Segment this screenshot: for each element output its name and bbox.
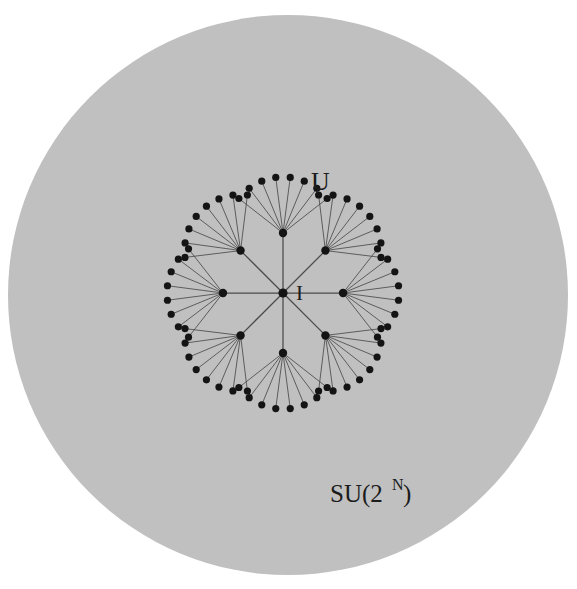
tree-node-leaf (395, 297, 402, 304)
tree-node-leaf (329, 192, 336, 199)
tree-node-leaf (193, 366, 200, 373)
tree-node-leaf (287, 405, 294, 412)
tree-node-leaf (175, 323, 182, 330)
tree-node-level1 (321, 246, 329, 254)
tree-node-root-identity (278, 288, 287, 297)
tree-node-leaf (366, 366, 373, 373)
tree-node-leaf (324, 384, 331, 391)
tree-node-leaf (287, 174, 294, 181)
tree-node-leaf (185, 225, 192, 232)
tree-node-leaf (301, 401, 308, 408)
tree-node-leaf (374, 245, 381, 252)
tree-node-leaf (377, 254, 384, 261)
tree-node-leaf (272, 174, 279, 181)
tree-node-leaf (377, 339, 384, 346)
figure-canvas: I U SU(2 N ) (0, 0, 577, 589)
tree-node-leaf (244, 191, 251, 198)
tree-node-leaf (168, 268, 175, 275)
tree-node-leaf (215, 383, 222, 390)
tree-node-leaf (395, 282, 402, 289)
tree-node-leaf (182, 239, 189, 246)
tree-node-leaf (391, 311, 398, 318)
tree-node-leaf (384, 256, 391, 263)
tree-node-leaf (391, 268, 398, 275)
tree-node-leaf (244, 387, 251, 394)
tree-node-leaf (185, 334, 192, 341)
tree-node-leaf (315, 387, 322, 394)
tree-node-leaf (193, 213, 200, 220)
tree-node-leaf (258, 178, 265, 185)
identity-label: I (296, 281, 303, 305)
tree-node-leaf (377, 325, 384, 332)
tree-node-leaf (229, 387, 236, 394)
tree-node-level1 (236, 331, 244, 339)
tree-node-level1 (279, 229, 287, 237)
tree-node-leaf (181, 325, 188, 332)
tree-node-leaf (175, 256, 182, 263)
tree-node-level1 (339, 289, 347, 297)
tree-node-leaf (356, 203, 363, 210)
tree-node-leaf (229, 192, 236, 199)
tree-node-leaf (384, 323, 391, 330)
tree-node-leaf (356, 376, 363, 383)
tree-node-level1 (321, 331, 329, 339)
tree-node-leaf (313, 394, 320, 401)
figure-root: I U SU(2 N ) (0, 0, 577, 589)
tree-node-leaf (168, 311, 175, 318)
unitary-label: U (311, 167, 330, 196)
tree-node-leaf (203, 376, 210, 383)
tree-node-leaf (164, 282, 171, 289)
tree-node-leaf (164, 297, 171, 304)
tree-node-leaf (343, 383, 350, 390)
tree-node-leaf (246, 394, 253, 401)
group-manifold-disk (8, 15, 568, 575)
tree-node-leaf (185, 353, 192, 360)
tree-node-leaf (215, 195, 222, 202)
tree-node-leaf (181, 254, 188, 261)
tree-node-leaf (343, 195, 350, 202)
tree-node-level1 (219, 289, 227, 297)
tree-node-leaf (373, 225, 380, 232)
group-label-close-paren: ) (403, 480, 411, 508)
tree-node-leaf (373, 353, 380, 360)
tree-node-leaf (258, 401, 265, 408)
group-label-base: SU(2 (330, 480, 383, 508)
tree-node-leaf (366, 213, 373, 220)
tree-node-level1 (279, 349, 287, 357)
tree-node-level1 (236, 246, 244, 254)
tree-node-leaf (246, 185, 253, 192)
tree-node-leaf (272, 405, 279, 412)
tree-node-leaf (203, 203, 210, 210)
tree-node-leaf (301, 178, 308, 185)
